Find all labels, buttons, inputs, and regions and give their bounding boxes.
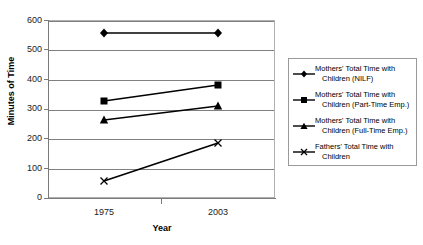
y-tick-label-0: 0 xyxy=(0,193,42,202)
legend-label-line2: Children (Full-Time Emp.) xyxy=(315,126,408,136)
legend-item-mothers-part-time: Mothers' Total Time with Children (Part-… xyxy=(293,90,413,110)
gridline-400 xyxy=(49,80,274,81)
legend-item-mothers-full-time: Mothers' Total Time with Children (Full-… xyxy=(293,116,413,136)
legend-label-fathers: Fathers' Total Time with Children xyxy=(315,142,393,162)
x-tick-label-2003: 2003 xyxy=(193,207,243,217)
y-tick-mark-600 xyxy=(44,20,49,21)
legend-item-mothers-nilf: Mothers' Total Time with Children (NILF) xyxy=(293,64,413,84)
x-axis-line xyxy=(48,198,276,199)
y-tick-mark-100 xyxy=(44,168,49,169)
legend-label-line1: Fathers' Total Time with xyxy=(315,142,393,151)
y-tick-mark-0 xyxy=(44,198,49,199)
legend: Mothers' Total Time with Children (NILF)… xyxy=(288,58,417,166)
legend-label-line2: Children xyxy=(315,152,393,162)
legend-label-mothers-full-time: Mothers' Total Time with Children (Full-… xyxy=(315,116,408,136)
y-tick-label-600: 600 xyxy=(0,16,42,25)
chart-root: 600 500 400 300 200 100 0 1975 2003 Minu… xyxy=(0,0,423,245)
gridline-600 xyxy=(49,21,274,22)
legend-label-line2: Children (NILF) xyxy=(315,74,395,84)
gridline-500 xyxy=(49,50,274,51)
x-axis-title: Year xyxy=(48,223,276,233)
legend-label-line2: Children (Part-Time Emp.) xyxy=(315,100,409,110)
gridline-100 xyxy=(49,169,274,170)
y-tick-mark-200 xyxy=(44,138,49,139)
legend-label-line1: Mothers' Total Time with xyxy=(315,90,395,99)
legend-label-line1: Mothers' Total Time with xyxy=(315,116,395,125)
y-tick-mark-300 xyxy=(44,109,49,110)
y-tick-label-100: 100 xyxy=(0,164,42,173)
x-tick-mark-center xyxy=(161,199,162,204)
triangle-marker-icon xyxy=(293,117,315,127)
diamond-marker-icon xyxy=(293,65,315,75)
gridline-200 xyxy=(49,139,274,140)
y-tick-mark-400 xyxy=(44,79,49,80)
y-axis-title: Minutes of Time xyxy=(6,45,16,137)
y-tick-mark-500 xyxy=(44,49,49,50)
y-tick-label-100-text: 100 xyxy=(2,164,42,173)
gridline-300 xyxy=(49,110,274,111)
square-marker-icon xyxy=(293,91,315,101)
legend-item-fathers: Fathers' Total Time with Children xyxy=(293,142,413,162)
x-tick-label-1975: 1975 xyxy=(79,207,129,217)
legend-label-mothers-part-time: Mothers' Total Time with Children (Part-… xyxy=(315,90,409,110)
legend-label-mothers-nilf: Mothers' Total Time with Children (NILF) xyxy=(315,64,395,84)
y-tick-label-0-text: 0 xyxy=(2,193,42,202)
legend-label-line1: Mothers' Total Time with xyxy=(315,64,395,73)
y-tick-label-600-text: 600 xyxy=(2,16,42,25)
plot-area xyxy=(48,20,275,198)
x-marker-icon xyxy=(293,143,315,153)
